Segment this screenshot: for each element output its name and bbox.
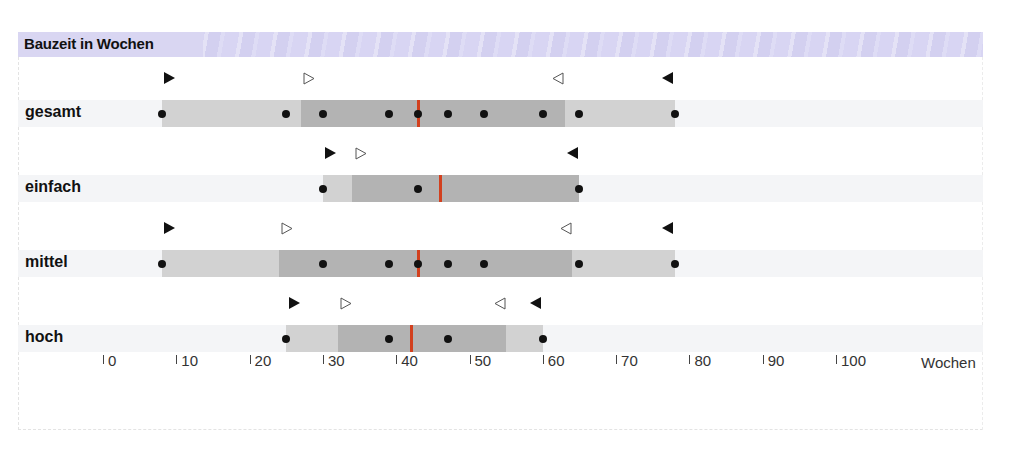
x-tick: 40 <box>396 352 418 369</box>
tick-label: 20 <box>255 352 272 369</box>
data-point <box>385 335 393 343</box>
data-point <box>539 335 547 343</box>
tick-mark <box>836 355 837 364</box>
triangle-filled-left-icon <box>662 72 673 84</box>
triangle-filled-left-icon <box>567 147 578 159</box>
tick-label: 60 <box>548 352 565 369</box>
data-point <box>319 110 327 118</box>
triangle-filled-right-icon <box>164 72 175 84</box>
tick-mark <box>250 355 251 364</box>
x-tick: 50 <box>470 352 492 369</box>
inner-range-bar <box>352 175 579 202</box>
x-tick: 90 <box>763 352 785 369</box>
chart-frame <box>18 32 983 430</box>
x-tick: 100 <box>836 352 866 369</box>
data-point <box>539 110 547 118</box>
triangle-filled-left-icon <box>530 297 541 309</box>
triangle-filled-right-icon <box>164 222 175 234</box>
tick-label: 40 <box>401 352 418 369</box>
tick-mark <box>689 355 690 364</box>
data-point <box>319 260 327 268</box>
x-tick: 10 <box>176 352 198 369</box>
tick-mark <box>103 355 104 364</box>
tick-label: 50 <box>475 352 492 369</box>
chart-title: Bauzeit in Wochen <box>24 35 154 52</box>
inner-range-bar <box>301 100 565 127</box>
tick-mark <box>323 355 324 364</box>
chart-header: Bauzeit in Wochen <box>18 32 983 57</box>
tick-mark <box>616 355 617 364</box>
x-axis-unit-label: Wochen <box>921 354 976 371</box>
data-point <box>158 260 166 268</box>
data-point <box>444 260 452 268</box>
row-label: einfach <box>25 178 81 196</box>
row-label: mittel <box>25 253 68 271</box>
tick-label: 70 <box>621 352 638 369</box>
tick-label: 0 <box>108 352 116 369</box>
x-tick: 70 <box>616 352 638 369</box>
x-tick: 80 <box>689 352 711 369</box>
data-point <box>444 110 452 118</box>
x-tick: 60 <box>543 352 565 369</box>
triangle-filled-right-icon <box>289 297 300 309</box>
data-point <box>385 110 393 118</box>
tick-label: 90 <box>768 352 785 369</box>
triangle-filled-right-icon <box>325 147 336 159</box>
x-tick: 30 <box>323 352 345 369</box>
tick-mark <box>396 355 397 364</box>
median-line <box>439 175 442 202</box>
median-line <box>410 325 413 352</box>
triangle-filled-left-icon <box>662 222 673 234</box>
x-tick: 0 <box>103 352 116 369</box>
x-tick: 20 <box>250 352 272 369</box>
tick-mark <box>176 355 177 364</box>
tick-label: 100 <box>841 352 866 369</box>
row-label: hoch <box>25 328 63 346</box>
data-point <box>671 260 679 268</box>
row-label: gesamt <box>25 103 81 121</box>
inner-range-bar <box>338 325 507 352</box>
tick-mark <box>470 355 471 364</box>
tick-label: 30 <box>328 352 345 369</box>
data-point <box>444 335 452 343</box>
data-point <box>671 110 679 118</box>
tick-mark <box>763 355 764 364</box>
data-point <box>158 110 166 118</box>
tick-label: 80 <box>694 352 711 369</box>
data-point <box>319 185 327 193</box>
tick-label: 10 <box>181 352 198 369</box>
data-point <box>385 260 393 268</box>
tick-mark <box>543 355 544 364</box>
